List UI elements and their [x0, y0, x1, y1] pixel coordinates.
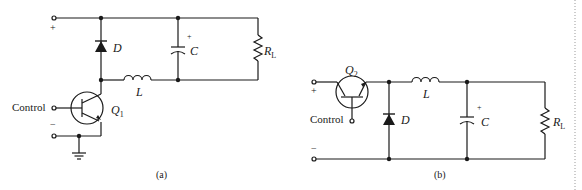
inductor-b [412, 78, 439, 82]
cap-polarity-a: + [187, 33, 192, 41]
circuit-figure: + D + C RL L Control Q1 − (a) Q2 + L Con… [0, 0, 582, 190]
diode-label-b: D [401, 114, 410, 126]
cap-label-a: C [190, 45, 198, 57]
inductor-label-b: L [423, 88, 430, 100]
cap-polarity-b: + [477, 104, 482, 112]
resistor-label-a: RL [264, 45, 276, 60]
caption-a: (a) [156, 170, 167, 180]
circuit-a [52, 16, 262, 159]
diode-b [383, 114, 395, 125]
caption-b: (b) [434, 170, 446, 180]
control-label-a: Control [12, 102, 46, 113]
minus-terminal-a: − [50, 120, 56, 130]
diode-a [95, 41, 107, 52]
resistor-label-b: RL [553, 116, 565, 131]
control-label-b: Control [310, 114, 344, 125]
transistor-label-a: Q1 [111, 104, 124, 119]
inductor-label-a: L [136, 86, 143, 98]
transistor-label-b: Q2 [345, 64, 358, 79]
inductor-a [124, 76, 151, 81]
plus-terminal-a: + [50, 23, 56, 33]
circuit-b [312, 76, 549, 161]
diode-label-a: D [113, 42, 122, 54]
circuit-diagrams [0, 0, 582, 190]
cap-label-b: C [481, 116, 489, 128]
plus-terminal-b: + [311, 86, 317, 96]
resistor-rl-a [254, 35, 262, 61]
minus-terminal-b: − [311, 144, 317, 154]
resistor-rl-b [541, 108, 549, 134]
